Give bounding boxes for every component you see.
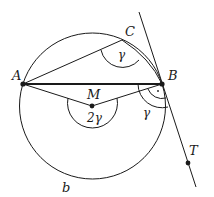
angle-arc-b-right: [148, 89, 166, 99]
label-arc-b: b: [62, 180, 70, 195]
point-t: [186, 161, 191, 166]
segment-am: [23, 84, 92, 106]
point-m: [90, 104, 95, 109]
segment-cb: [122, 40, 162, 84]
segment-ac: [23, 40, 122, 84]
label-b: B: [167, 68, 178, 83]
label-angle-m: 2γ: [86, 111, 103, 125]
label-m: M: [86, 87, 101, 102]
label-angle-b: γ: [143, 106, 151, 120]
label-t: T: [189, 143, 199, 158]
geometry-diagram: A B C M T γ 2γ γ b: [0, 0, 214, 197]
label-angle-c: γ: [118, 48, 126, 62]
point-b: [159, 81, 164, 86]
label-c: C: [125, 24, 135, 39]
right-angle-dot: [157, 90, 159, 92]
label-a: A: [11, 68, 21, 83]
